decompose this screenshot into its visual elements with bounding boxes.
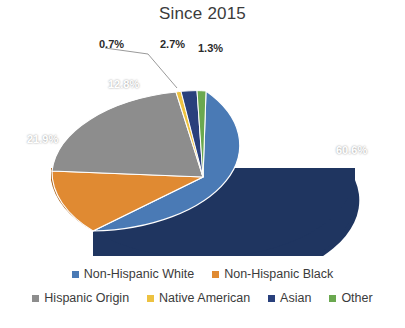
- data-label-non-hispanic-black: 21.9%: [27, 133, 58, 145]
- legend-swatch-icon: [212, 271, 219, 278]
- legend-row-2: Hispanic Origin Native American Asian Ot…: [0, 286, 405, 310]
- legend-swatch-icon: [329, 295, 336, 302]
- chart-legend: Non-Hispanic White Non-Hispanic Black Hi…: [0, 258, 405, 324]
- legend-label: Native American: [159, 291, 250, 305]
- legend-label: Asian: [280, 291, 311, 305]
- legend-item-non-hispanic-black[interactable]: Non-Hispanic Black: [212, 267, 333, 281]
- legend-item-other[interactable]: Other: [329, 291, 372, 305]
- pie-svg: [0, 28, 405, 256]
- legend-swatch-icon: [147, 295, 154, 302]
- data-label-native-american: 0.7%: [99, 38, 124, 50]
- legend-label: Other: [341, 291, 372, 305]
- legend-label: Non-Hispanic Black: [224, 267, 333, 281]
- legend-swatch-icon: [268, 295, 275, 302]
- legend-row-1: Non-Hispanic White Non-Hispanic Black: [0, 262, 405, 286]
- data-label-non-hispanic-white: 60.6%: [336, 144, 367, 156]
- chart-title: Since 2015: [0, 4, 405, 24]
- pie-plot-area: 60.6% 21.9% 12.8% 0.7% 2.7% 1.3%: [0, 28, 405, 256]
- legend-item-hispanic-origin[interactable]: Hispanic Origin: [32, 291, 129, 305]
- legend-label: Hispanic Origin: [44, 291, 129, 305]
- data-label-hispanic-origin: 12.8%: [108, 78, 139, 90]
- legend-swatch-icon: [32, 295, 39, 302]
- legend-label: Non-Hispanic White: [84, 267, 194, 281]
- legend-item-non-hispanic-white[interactable]: Non-Hispanic White: [72, 267, 194, 281]
- data-label-asian: 2.7%: [160, 38, 185, 50]
- legend-item-native-american[interactable]: Native American: [147, 291, 250, 305]
- legend-swatch-icon: [72, 271, 79, 278]
- pie-chart-figure: Since 2015: [0, 0, 405, 328]
- legend-item-asian[interactable]: Asian: [268, 291, 311, 305]
- data-label-other: 1.3%: [198, 42, 223, 54]
